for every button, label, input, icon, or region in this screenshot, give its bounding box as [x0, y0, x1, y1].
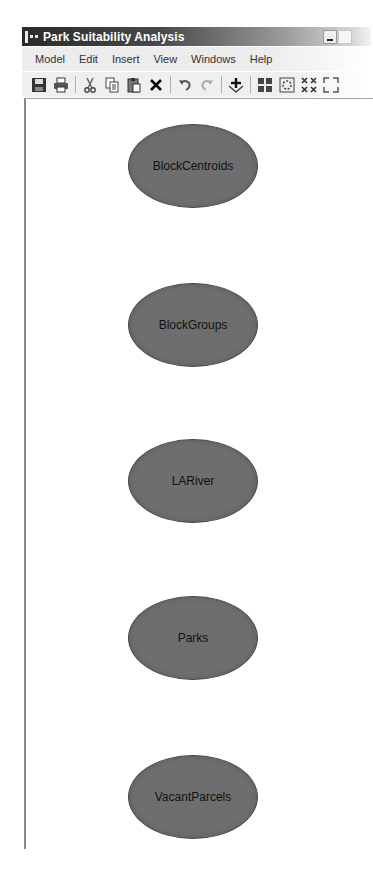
model-node-lariver[interactable]: LARiver	[128, 439, 258, 523]
menu-view[interactable]: View	[146, 53, 184, 65]
zoom-in-button[interactable]	[301, 77, 317, 93]
window-title: Park Suitability Analysis	[43, 30, 184, 44]
print-button[interactable]	[53, 77, 69, 93]
x-icon	[148, 77, 164, 93]
zoom-out-fixed-icon	[323, 77, 339, 93]
node-label: LARiver	[172, 474, 215, 488]
floppy-disk-icon	[31, 77, 47, 93]
toolbar	[22, 72, 371, 97]
zoom-in-fixed-icon	[301, 77, 317, 93]
toolbar-separator	[170, 76, 171, 93]
scissors-icon	[82, 77, 98, 93]
model-node-blockgroups[interactable]: BlockGroups	[128, 283, 258, 367]
paste-button[interactable]	[126, 77, 142, 93]
zoom-out-button[interactable]	[323, 77, 339, 93]
menu-edit[interactable]: Edit	[72, 53, 105, 65]
node-label: Parks	[178, 631, 209, 645]
menu-insert[interactable]: Insert	[105, 53, 147, 65]
model-node-vacantparcels[interactable]: VacantParcels	[128, 755, 258, 839]
full-extent-icon	[279, 77, 295, 93]
cropped-caption-text	[22, 864, 142, 870]
delete-button[interactable]	[148, 77, 164, 93]
model-app-icon	[25, 31, 39, 43]
menu-model[interactable]: Model	[22, 53, 72, 65]
toolbar-separator	[250, 76, 251, 93]
menu-bar: Model Edit Insert View Windows Help	[22, 47, 371, 71]
menu-help[interactable]: Help	[243, 53, 280, 65]
maximize-button[interactable]	[338, 30, 352, 44]
cut-button[interactable]	[82, 77, 98, 93]
save-button[interactable]	[31, 77, 47, 93]
undo-icon	[177, 77, 193, 93]
toolbar-separator	[75, 76, 76, 93]
model-canvas[interactable]: BlockCentroids BlockGroups LARiver Parks…	[24, 98, 373, 849]
node-label: BlockCentroids	[153, 159, 234, 173]
title-bar[interactable]: Park Suitability Analysis	[22, 27, 371, 46]
toolbar-separator	[221, 76, 222, 93]
model-node-blockcentroids[interactable]: BlockCentroids	[128, 124, 258, 208]
full-extent-button[interactable]	[279, 77, 295, 93]
grid-layout-icon	[257, 77, 273, 93]
model-builder-window: Park Suitability Analysis Model Edit Ins…	[22, 27, 371, 849]
menu-windows[interactable]: Windows	[184, 53, 243, 65]
node-label: VacantParcels	[155, 790, 231, 804]
redo-button[interactable]	[199, 77, 215, 93]
model-node-parks[interactable]: Parks	[128, 596, 258, 680]
paste-icon	[126, 77, 142, 93]
printer-icon	[53, 77, 69, 93]
minimize-button[interactable]	[323, 30, 337, 44]
redo-icon	[199, 77, 215, 93]
copy-icon	[104, 77, 120, 93]
add-data-icon	[228, 77, 244, 93]
copy-button[interactable]	[104, 77, 120, 93]
node-label: BlockGroups	[159, 318, 228, 332]
auto-layout-button[interactable]	[257, 77, 273, 93]
undo-button[interactable]	[177, 77, 193, 93]
add-data-button[interactable]	[228, 77, 244, 93]
